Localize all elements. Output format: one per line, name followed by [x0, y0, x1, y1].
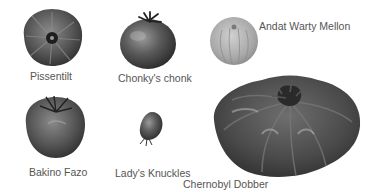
- label-chonkys-chonk: Chonky's chonk: [118, 72, 192, 84]
- tomato-image-chernobyl-dobber: [214, 76, 360, 177]
- tomato-image-andat-warty-mellon: [210, 17, 258, 65]
- tomato-image-ladys-knuckles: [140, 112, 163, 146]
- label-bakino-fazo: Bakino Fazo: [29, 166, 87, 178]
- label-andat-warty-mellon: Andat Warty Mellon: [259, 20, 350, 32]
- tomato-image-bakino-fazo: [26, 96, 85, 158]
- tomato-image-chonkys-chonk: [120, 12, 176, 69]
- label-ladys-knuckles: Lady's Knuckles: [115, 167, 191, 179]
- label-pissentilt: Pissentilt: [30, 70, 72, 82]
- tomato-image-pissentilt: [24, 9, 82, 66]
- label-chernobyl-dobber: Chernobyl Dobber: [183, 178, 268, 190]
